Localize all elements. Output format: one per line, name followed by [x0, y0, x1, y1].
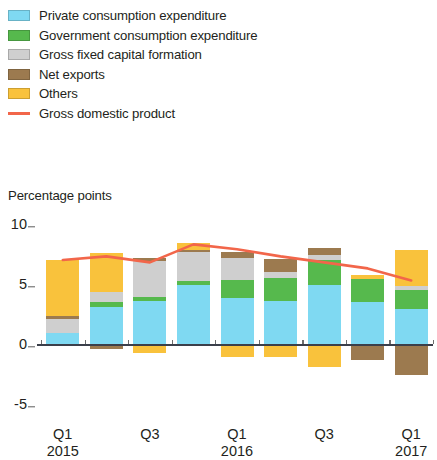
- x-axis-quarter-label: Q1: [47, 426, 79, 443]
- legend-item-private: Private consumption expenditure: [8, 6, 428, 26]
- chart-legend: Private consumption expenditureGovernmen…: [8, 6, 428, 123]
- legend-line-icon-gdp: [8, 108, 30, 119]
- legend-item-others: Others: [8, 84, 428, 104]
- legend-label-gfcf: Gross fixed capital formation: [39, 48, 202, 61]
- x-axis-tick-label: Q12017: [395, 426, 427, 460]
- x-axis-year-label: 2015: [47, 443, 79, 460]
- x-axis-quarter-label: Q1: [395, 426, 427, 443]
- legend-item-gdp: Gross domestic product: [8, 104, 428, 124]
- legend-swatch-icon-government: [8, 30, 30, 41]
- x-axis-tick-label: Q12015: [47, 426, 79, 460]
- gdp-line-path: [63, 244, 411, 280]
- x-axis-tick-label: Q12016: [221, 426, 253, 460]
- legend-item-netexports: Net exports: [8, 65, 428, 85]
- x-axis-quarter-label: Q1: [221, 426, 253, 443]
- legend-swatch-icon-private: [8, 10, 30, 21]
- legend-line-stroke: [8, 112, 30, 114]
- legend-item-gfcf: Gross fixed capital formation: [8, 45, 428, 65]
- x-axis-year-label: 2017: [395, 443, 427, 460]
- legend-label-private: Private consumption expenditure: [39, 9, 226, 22]
- x-axis-tick-label: Q3: [140, 426, 159, 443]
- y-axis-unit-caption: Percentage points: [8, 188, 112, 203]
- x-axis-tick-label: Q3: [314, 426, 333, 443]
- x-axis-quarter-label: Q3: [314, 426, 333, 443]
- legend-label-gdp: Gross domestic product: [39, 107, 175, 120]
- legend-label-netexports: Net exports: [39, 68, 105, 81]
- gdp-line-overlay: [0, 204, 437, 446]
- legend-label-others: Others: [39, 87, 78, 100]
- x-axis-year-label: 2016: [221, 443, 253, 460]
- legend-swatch-icon-gfcf: [8, 49, 30, 60]
- chart-plot-area: 1050-5Q12015Q3Q12016Q3Q12017: [0, 204, 437, 446]
- legend-item-government: Government consumption expenditure: [8, 26, 428, 46]
- legend-swatch-icon-others: [8, 88, 30, 99]
- legend-label-government: Government consumption expenditure: [39, 29, 257, 42]
- x-axis-quarter-label: Q3: [140, 426, 159, 443]
- legend-swatch-icon-netexports: [8, 69, 30, 80]
